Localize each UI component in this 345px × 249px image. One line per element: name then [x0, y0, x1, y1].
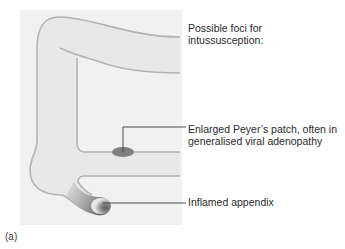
foci-title-line-1: Possible foci for: [188, 22, 263, 34]
panel-label: (a): [5, 231, 17, 242]
appendix-label-line-1: Inflamed appendix: [188, 196, 274, 208]
peyers-patch-label-line-2: generalised viral adenopathy: [188, 135, 337, 147]
peyers-patch-label-line-1: Enlarged Peyer’s patch, often in: [188, 123, 337, 135]
foci-title-line-2: intussusception:: [188, 34, 263, 46]
intussusception-diagram: Possible foci for intussusception: Enlar…: [0, 0, 345, 249]
foci-title: Possible foci for intussusception:: [188, 22, 263, 46]
appendix-label: Inflamed appendix: [188, 196, 274, 208]
inflamed-appendix-tip: [91, 198, 111, 214]
peyers-patch-label: Enlarged Peyer’s patch, often in general…: [188, 123, 337, 147]
